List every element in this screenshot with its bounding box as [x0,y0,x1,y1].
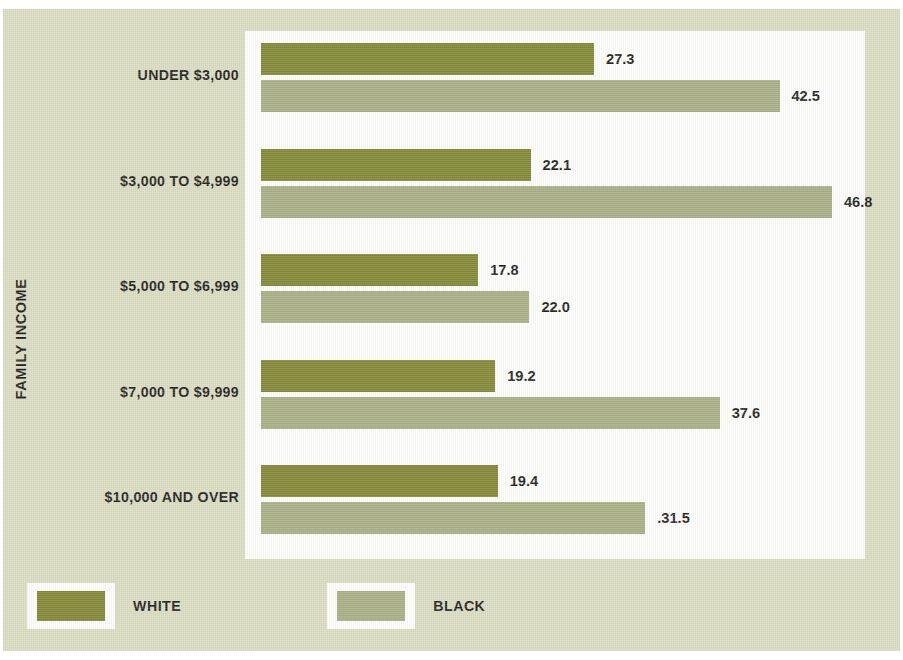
bar-row: 37.6 [261,397,890,429]
bar-row: 17.8 [261,254,648,286]
bar-group: 19.4.31.5 [245,453,865,559]
bar-value-label: 42.5 [792,88,820,104]
bar-value-label: 37.6 [732,405,760,421]
bar-value-label: .31.5 [657,510,689,526]
bar-row: 19.2 [261,360,665,392]
bar-row: 27.3 [261,43,764,75]
category-label: $5,000 TO $6,999 [3,278,239,294]
bar-value-label: 17.8 [490,262,518,278]
chart-legend: WHITEBLACK [27,583,485,629]
bar-white [261,43,594,75]
category-label: $7,000 TO $9,999 [3,384,239,400]
bar-value-label: 22.0 [541,299,569,315]
bar-value-label: 19.4 [510,473,538,489]
bar-group: 27.342.5 [245,31,865,137]
legend-swatch-color [37,591,105,621]
bar-row: .31.5 [261,502,815,534]
bar-black [261,291,529,323]
legend-item: BLACK [327,583,485,629]
bar-black [261,186,832,218]
category-label: UNDER $3,000 [3,67,239,83]
legend-label: BLACK [433,598,485,614]
bar-row: 22.0 [261,291,699,323]
bar-value-label: 22.1 [543,157,571,173]
bar-value-label: 46.8 [844,194,872,210]
bar-black [261,502,645,534]
bar-value-label: 19.2 [507,368,535,384]
category-label-column: UNDER $3,000$3,000 TO $4,999$5,000 TO $6… [3,31,239,559]
bar-group: 17.822.0 [245,242,865,348]
bar-white [261,254,478,286]
category-label: $10,000 AND OVER [3,489,239,505]
bar-white [261,149,531,181]
legend-item: WHITE [27,583,181,629]
bar-black [261,397,720,429]
bar-group: 19.237.6 [245,348,865,454]
legend-label: WHITE [133,598,181,614]
legend-swatch-color [337,591,405,621]
bar-group: 22.146.8 [245,137,865,243]
plot-panel: 27.342.522.146.817.822.019.237.619.4.31.… [245,31,865,559]
legend-swatch [327,583,415,629]
bar-row: 42.5 [261,80,903,112]
bar-row: 19.4 [261,465,668,497]
chart-figure: FAMILY INCOME UNDER $3,000$3,000 TO $4,9… [0,0,903,660]
legend-swatch [27,583,115,629]
bar-row: 46.8 [261,186,903,218]
category-label: $3,000 TO $4,999 [3,173,239,189]
bar-white [261,360,495,392]
bar-white [261,465,498,497]
bar-row: 22.1 [261,149,701,181]
bar-black [261,80,780,112]
bar-value-label: 27.3 [606,51,634,67]
